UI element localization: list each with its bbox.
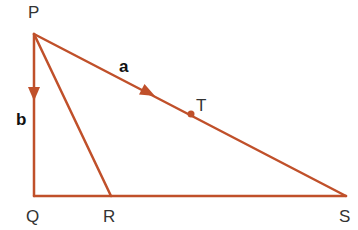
label-s: S [339, 207, 350, 226]
label-vector-b: b [16, 110, 26, 129]
label-q: Q [26, 207, 39, 226]
label-p: P [28, 3, 39, 22]
triangle-diagram: P Q R S T a b [0, 0, 358, 230]
segment-pr [34, 34, 111, 196]
point-t-dot [188, 111, 195, 118]
label-r: R [103, 207, 115, 226]
vector-b-arrow-icon [28, 87, 40, 101]
label-vector-a: a [119, 57, 129, 76]
label-t: T [196, 96, 206, 115]
diagram-svg: P Q R S T a b [0, 0, 358, 230]
vector-a-arrow-icon [139, 84, 155, 96]
